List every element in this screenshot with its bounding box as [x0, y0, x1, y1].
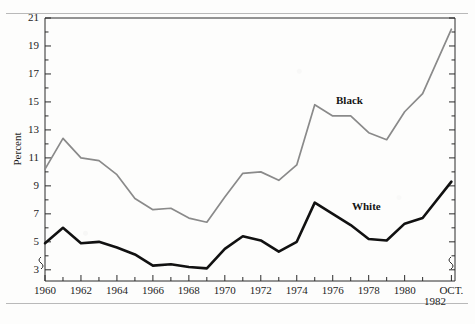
- x-axis-end-year-label: 1982: [424, 295, 446, 307]
- x-tick-label: 1980: [383, 285, 427, 296]
- axis-ticks: [45, 18, 455, 281]
- y-tick-label: 11: [13, 152, 39, 163]
- axis-break-marks: [39, 257, 453, 269]
- line-chart: [0, 0, 475, 324]
- series-line-black: [45, 29, 451, 222]
- data-series-group: [45, 29, 451, 268]
- series-line-white: [45, 182, 451, 269]
- y-tick-label: 9: [13, 180, 39, 191]
- y-tick-label: 13: [13, 124, 39, 135]
- y-tick-label: 5: [13, 236, 39, 247]
- series-label-white: White: [352, 200, 381, 212]
- y-tick-label: 7: [13, 208, 39, 219]
- figure-container: Percent 35791113151719211960196219641966…: [0, 0, 475, 324]
- y-tick-label: 15: [13, 96, 39, 107]
- y-tick-label: 19: [13, 40, 39, 51]
- y-tick-label: 3: [13, 264, 39, 275]
- y-tick-label: 17: [13, 68, 39, 79]
- series-label-black: Black: [336, 94, 363, 106]
- y-tick-label: 21: [13, 12, 39, 23]
- plot-frame: [45, 18, 455, 281]
